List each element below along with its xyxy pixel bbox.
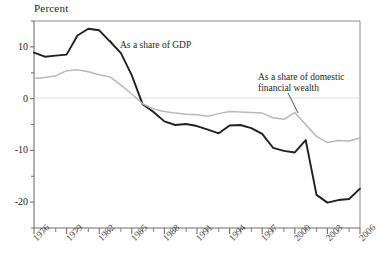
- annotation-wealth: As a share of domesticfinancial wealth: [258, 72, 345, 93]
- y-tick-label: -20: [2, 196, 28, 207]
- wealth-leader-line: [288, 93, 298, 113]
- annotation-line: financial wealth: [258, 83, 345, 94]
- annotation-line: As a share of domestic: [258, 72, 345, 83]
- plot-frame: [34, 21, 360, 228]
- data-series-group: [34, 29, 360, 203]
- y-tick-label: -10: [2, 144, 28, 155]
- y-tick-label: 10: [2, 41, 28, 52]
- series-line: [34, 29, 360, 203]
- annotation-line: As a share of GDP: [120, 40, 191, 51]
- y-tick-label: 0: [2, 93, 28, 104]
- annotation-gdp: As a share of GDP: [120, 40, 191, 51]
